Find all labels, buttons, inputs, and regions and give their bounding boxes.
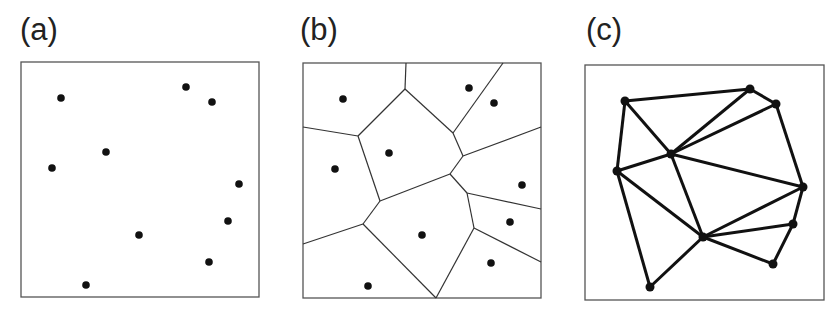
panel-a-random-points xyxy=(21,62,259,297)
delaunay-edge xyxy=(625,101,671,154)
site-point xyxy=(82,281,90,289)
delaunay-edge xyxy=(617,171,650,287)
site-point xyxy=(418,231,426,239)
site-point xyxy=(746,85,755,94)
voronoi-edge xyxy=(303,224,363,244)
voronoi-edge xyxy=(463,127,541,156)
voronoi-edge xyxy=(358,136,380,201)
delaunay-edge xyxy=(617,154,671,171)
site-point xyxy=(57,94,65,102)
site-point xyxy=(465,84,473,92)
site-point xyxy=(331,165,339,173)
site-point xyxy=(699,233,708,242)
voronoi-edge xyxy=(436,228,474,298)
delaunay-edge xyxy=(671,154,803,187)
panel-b-frame xyxy=(303,63,541,298)
site-point xyxy=(646,283,655,292)
panel-c-delaunay-triangulation xyxy=(585,65,824,300)
site-point xyxy=(772,100,781,109)
voronoi-edge xyxy=(363,201,380,224)
site-point xyxy=(208,98,216,106)
site-point xyxy=(235,180,243,188)
site-point xyxy=(339,95,347,103)
delaunay-edge xyxy=(650,237,703,287)
delaunay-edge xyxy=(773,224,793,264)
voronoi-edge xyxy=(450,156,463,174)
voronoi-edge xyxy=(467,193,474,228)
voronoi-edge xyxy=(467,193,541,209)
site-point xyxy=(385,149,393,157)
voronoi-edge xyxy=(358,89,405,136)
site-point xyxy=(224,217,232,225)
site-point xyxy=(769,260,778,269)
delaunay-edge xyxy=(617,101,625,171)
voronoi-edge xyxy=(453,63,503,133)
delaunay-edge xyxy=(703,237,773,264)
site-point xyxy=(789,220,798,229)
site-point xyxy=(667,150,676,159)
site-point xyxy=(799,183,808,192)
site-point xyxy=(135,231,143,239)
voronoi-edge xyxy=(405,63,406,89)
voronoi-edge xyxy=(303,127,358,136)
site-point xyxy=(490,99,498,107)
voronoi-edge xyxy=(450,174,467,193)
voronoi-edge xyxy=(474,228,541,262)
site-point xyxy=(506,218,514,226)
delaunay-edge xyxy=(625,89,750,101)
voronoi-edge xyxy=(453,133,463,156)
voronoi-edge xyxy=(380,174,450,201)
diagram-canvas xyxy=(0,0,836,316)
site-point xyxy=(487,259,495,267)
site-point xyxy=(621,97,630,106)
panel-b-voronoi-diagram xyxy=(303,63,541,298)
site-point xyxy=(102,148,110,156)
panel-a-frame xyxy=(21,62,259,297)
site-point xyxy=(518,181,526,189)
site-point xyxy=(364,282,372,290)
delaunay-edge xyxy=(776,104,803,187)
site-point xyxy=(205,258,213,266)
site-point xyxy=(182,83,190,91)
site-point xyxy=(613,167,622,176)
voronoi-edge xyxy=(405,89,453,133)
delaunay-edge xyxy=(750,89,776,104)
site-point xyxy=(48,164,56,172)
